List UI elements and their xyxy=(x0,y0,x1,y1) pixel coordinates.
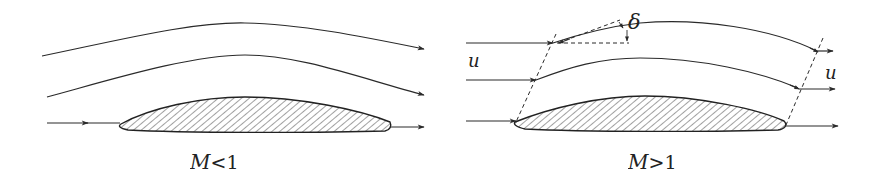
downstream-velocity-label: u xyxy=(825,62,849,83)
subsonic-panel xyxy=(42,23,424,132)
streamline-upper-deflected xyxy=(553,22,817,51)
streamline-middle-deflected xyxy=(536,58,798,88)
delta-label: δ xyxy=(628,10,658,34)
airfoil-supersonic xyxy=(514,96,785,131)
mach-wave-leading xyxy=(516,34,556,122)
caption-supersonic: M>1 xyxy=(628,150,738,174)
flow-diagram: M<1 δ u u M>1 xyxy=(0,0,880,184)
mach-symbol: M xyxy=(190,150,210,174)
mach-relation: >1 xyxy=(648,151,676,173)
mach-symbol: M xyxy=(628,150,648,174)
mach-relation: <1 xyxy=(210,151,238,173)
caption-subsonic: M<1 xyxy=(190,150,300,174)
airfoil-subsonic xyxy=(119,97,390,132)
upstream-velocity-label: u xyxy=(468,50,492,71)
mach-wave-trailing xyxy=(786,38,823,125)
streamline-middle xyxy=(47,55,424,97)
streamline-upper xyxy=(42,23,424,56)
